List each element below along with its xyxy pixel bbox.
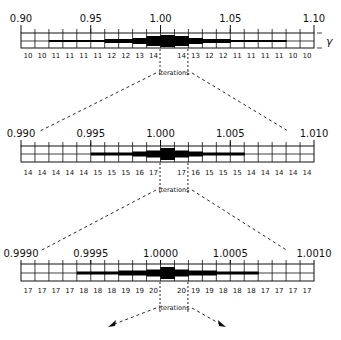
scale-medium: 0.9900.9951.0001.0051.010141414141415151… <box>7 128 329 251</box>
iteration-count: 12 <box>205 52 214 60</box>
iteration-count: 14 <box>289 169 298 177</box>
range-label: 0.9990 <box>4 248 39 259</box>
iterations-label: Iterations <box>158 304 190 312</box>
iteration-count: 17 <box>149 169 158 177</box>
convergence-bar <box>258 40 272 42</box>
iteration-count: 15 <box>219 169 228 177</box>
range-label: 1.0010 <box>297 248 332 259</box>
iteration-count: 17 <box>177 169 186 177</box>
convergence-bar <box>216 153 230 156</box>
range-label: 0.990 <box>7 128 36 139</box>
iteration-count: 17 <box>24 287 33 295</box>
convergence-bar <box>202 153 216 156</box>
range-label: 1.0000 <box>143 248 178 259</box>
convergence-bar <box>63 40 77 42</box>
convergence-bar <box>161 267 175 279</box>
iteration-count: 11 <box>275 52 284 60</box>
convergence-bar <box>147 151 161 158</box>
iteration-count: 13 <box>191 52 200 60</box>
iteration-count: 14 <box>275 169 284 177</box>
range-label: 1.010 <box>300 128 329 139</box>
iteration-count: 13 <box>135 52 144 60</box>
iteration-count: 17 <box>289 287 298 295</box>
convergence-bar <box>230 40 244 42</box>
iteration-count: 19 <box>121 287 130 295</box>
convergence-bar <box>230 153 244 156</box>
iteration-count: 15 <box>205 169 214 177</box>
convergence-bar <box>244 40 258 42</box>
iteration-count: 14 <box>37 169 46 177</box>
convergence-bar <box>272 40 286 42</box>
iteration-count: 17 <box>51 287 60 295</box>
iteration-count: 18 <box>247 287 256 295</box>
iteration-count: 14 <box>51 169 60 177</box>
convergence-bar <box>133 271 147 276</box>
convergence-bar <box>91 272 105 275</box>
range-label: 0.90 <box>10 13 32 24</box>
iteration-count: 18 <box>79 287 88 295</box>
convergence-bar <box>77 272 91 275</box>
convergence-bar <box>188 152 202 157</box>
iteration-count: 12 <box>121 52 130 60</box>
iteration-count: 15 <box>93 169 102 177</box>
iteration-count: 17 <box>37 287 46 295</box>
convergence-bar <box>133 152 147 157</box>
iteration-count: 18 <box>93 287 102 295</box>
iteration-count: 15 <box>233 169 242 177</box>
iteration-count: 11 <box>79 52 88 60</box>
convergence-bar <box>133 38 147 44</box>
zoom-connector <box>40 190 156 251</box>
iteration-count: 16 <box>191 169 200 177</box>
convergence-bar <box>105 153 119 156</box>
iteration-count: 15 <box>107 169 116 177</box>
convergence-bar <box>147 36 161 46</box>
iteration-count: 14 <box>149 52 158 60</box>
range-label: 1.05 <box>219 13 241 24</box>
convergence-bar <box>188 271 202 276</box>
iteration-count: 12 <box>219 52 228 60</box>
iterations-label: Iterations <box>158 69 190 77</box>
iteration-count: 14 <box>79 169 88 177</box>
iteration-count: 11 <box>65 52 74 60</box>
convergence-bar <box>119 153 133 156</box>
iteration-count: 19 <box>135 287 144 295</box>
iteration-count: 17 <box>275 287 284 295</box>
convergence-bar <box>147 270 161 277</box>
range-label: 1.10 <box>303 13 325 24</box>
range-label: 0.95 <box>80 13 102 24</box>
zoom-connector <box>40 73 156 131</box>
convergence-bar <box>216 39 230 43</box>
range-label: 0.9995 <box>73 248 108 259</box>
iteration-count: 17 <box>65 287 74 295</box>
iteration-count: 10 <box>303 52 312 60</box>
convergence-bar <box>202 271 216 276</box>
convergence-bar <box>105 272 119 275</box>
convergence-bar <box>91 153 105 156</box>
convergence-bar <box>174 270 188 277</box>
iteration-count: 10 <box>37 52 46 60</box>
iteration-count: 20 <box>149 287 158 295</box>
continuation-arrow <box>192 308 222 325</box>
iteration-count: 11 <box>247 52 256 60</box>
convergence-bar <box>188 38 202 44</box>
iteration-count: 14 <box>261 169 270 177</box>
range-label: 0.995 <box>76 128 105 139</box>
iteration-count: 16 <box>135 169 144 177</box>
iteration-count: 17 <box>303 287 312 295</box>
range-label: 1.0005 <box>213 248 248 259</box>
iteration-count: 12 <box>107 52 116 60</box>
iteration-scale-diagram: 0.900.951.001.051.1010101111111112121314… <box>0 0 341 340</box>
convergence-bar <box>119 39 133 43</box>
convergence-bar <box>105 39 119 43</box>
convergence-bar <box>91 40 105 42</box>
iteration-count: 14 <box>177 52 186 60</box>
convergence-bar <box>77 40 91 42</box>
convergence-bar <box>174 151 188 158</box>
arrowhead-icon <box>218 320 226 327</box>
continuation-arrow <box>112 308 156 325</box>
iteration-count: 18 <box>233 287 242 295</box>
iteration-count: 15 <box>121 169 130 177</box>
iteration-count: 11 <box>233 52 242 60</box>
convergence-bar <box>161 35 175 47</box>
range-label: 1.005 <box>216 128 245 139</box>
